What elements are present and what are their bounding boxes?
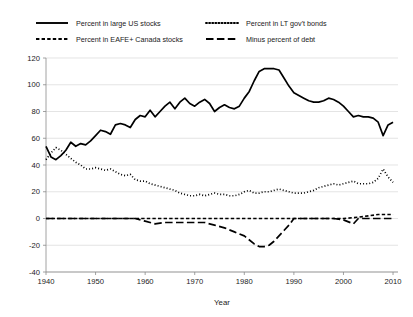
y-tick-label: 60 <box>32 134 40 143</box>
line-chart: Percent in large US stocksPercent in LT … <box>0 0 413 317</box>
x-tick-label: 1950 <box>87 277 104 286</box>
y-tick-label: -20 <box>29 241 40 250</box>
x-tick-label: 1990 <box>285 277 302 286</box>
x-tick-label: 1940 <box>38 277 55 286</box>
legend-label: Percent in EAFE+ Canada stocks <box>76 35 183 44</box>
y-tick-label: 20 <box>32 187 40 196</box>
x-tick-label: 1960 <box>137 277 154 286</box>
x-tick-label: 2000 <box>335 277 352 286</box>
legend-label: Percent in LT gov't bonds <box>246 19 327 28</box>
y-tick-label: -40 <box>29 268 40 277</box>
y-tick-label: 40 <box>32 161 40 170</box>
y-tick-label: 120 <box>27 54 40 63</box>
y-tick-label: 100 <box>27 80 40 89</box>
chart-background <box>0 0 413 317</box>
chart-figure: Percent in large US stocksPercent in LT … <box>0 0 413 317</box>
y-tick-label: 80 <box>32 107 40 116</box>
x-axis-title: Year <box>214 298 230 307</box>
x-tick-label: 1970 <box>186 277 203 286</box>
legend-label: Minus percent of debt <box>246 35 315 44</box>
x-tick-label: 1980 <box>236 277 253 286</box>
x-tick-label: 2010 <box>385 277 402 286</box>
legend-label: Percent in large US stocks <box>76 19 161 28</box>
y-tick-label: 0 <box>36 214 40 223</box>
